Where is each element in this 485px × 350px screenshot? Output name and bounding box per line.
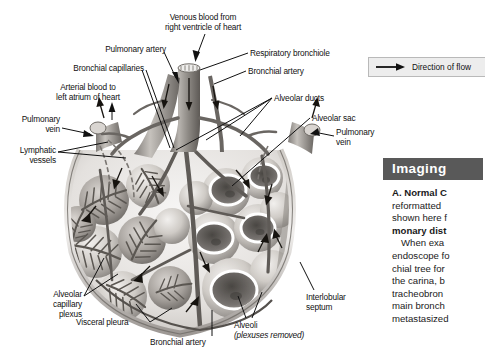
label-bronchial-artery-bottom: Bronchial artery bbox=[150, 337, 206, 347]
label-respiratory-bronchiole: Respiratory bronchiole bbox=[250, 48, 330, 58]
imaging-text-bold: A. Normal C bbox=[392, 187, 447, 198]
label-alveolar-sac: Alveolar sac bbox=[312, 113, 355, 123]
label-pulmonary-vein-right: Pulmonary vein bbox=[336, 127, 382, 147]
label-pulmonary-artery: Pulmonary artery bbox=[38, 44, 166, 54]
label-alveolar-ducts: Alveolar ducts bbox=[274, 93, 324, 103]
label-bronchial-artery-top: Bronchial artery bbox=[248, 66, 304, 76]
imaging-text-line: endoscope fo bbox=[392, 250, 485, 263]
figure-canvas: Venous blood from right ventricle of hea… bbox=[0, 0, 485, 350]
imaging-panel-header: Imaging bbox=[383, 158, 483, 180]
label-interlobular-septum: Interlobular septum bbox=[306, 292, 360, 312]
imaging-text-line: chial tree for bbox=[392, 263, 485, 276]
label-bronchial-capillaries: Bronchial capillaries bbox=[20, 63, 144, 73]
imaging-text-line: metastasized bbox=[392, 313, 485, 326]
bronchial-artery-trunk bbox=[210, 76, 222, 152]
label-alveolar-capillary-plexus: Alveolar capillary plexus bbox=[6, 289, 82, 319]
pulmonary-vein-right-lumen bbox=[304, 124, 320, 136]
imaging-text-line: tracheobron bbox=[392, 288, 485, 301]
imaging-text-line: shown here f bbox=[392, 212, 485, 225]
imaging-text-line: When exa bbox=[392, 237, 485, 250]
imaging-sidebar-panel: Imaging A. Normal Creformattedshown here… bbox=[383, 158, 485, 350]
label-pulmonary-vein-left: Pulmonary vein bbox=[0, 114, 60, 134]
imaging-text-line: the carina, b bbox=[392, 275, 485, 288]
label-visceral-pleura: Visceral pleura bbox=[76, 317, 128, 327]
imaging-text-line: reformatted bbox=[392, 200, 485, 213]
label-lymphatic-vessels: Lymphatic vessels bbox=[0, 145, 56, 165]
imaging-text-bold: monary dist bbox=[392, 225, 446, 236]
pulmonary-vein-left-lumen bbox=[90, 122, 106, 134]
legend-label: Direction of flow bbox=[412, 62, 471, 72]
right-arrow-icon bbox=[376, 62, 406, 72]
direction-of-flow-legend: Direction of flow bbox=[368, 57, 485, 77]
imaging-text-line: monary dist bbox=[392, 225, 485, 238]
label-alveoli: Alveoli (plexuses removed) bbox=[234, 320, 304, 340]
label-arterial-blood: Arterial blood to left atrium of heart bbox=[30, 82, 146, 102]
imaging-panel-body: A. Normal Creformattedshown here fmonary… bbox=[383, 180, 485, 326]
label-venous-blood: Venous blood from right ventricle of hea… bbox=[128, 12, 278, 32]
imaging-text-line: A. Normal C bbox=[392, 187, 485, 200]
imaging-text-line: main bronch bbox=[392, 300, 485, 313]
